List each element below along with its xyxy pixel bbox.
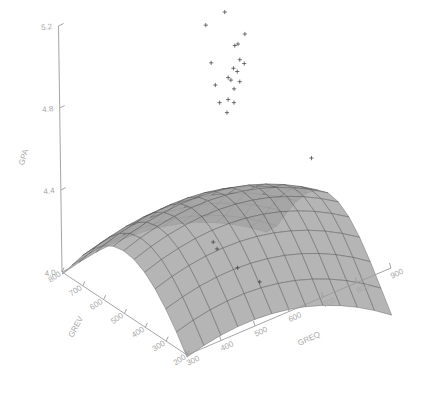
data-point	[218, 101, 222, 105]
grev-axis-title: GREV	[66, 314, 85, 339]
data-point	[243, 32, 247, 36]
greq-tick-label: 900	[389, 267, 405, 281]
gpa-tick	[60, 106, 65, 109]
grev-tick	[104, 295, 106, 300]
grev-tick	[83, 281, 85, 286]
greq-tick	[254, 321, 256, 326]
data-point	[235, 69, 239, 73]
grev-tick	[166, 337, 168, 342]
greq-tick-label: 400	[219, 339, 235, 353]
gpa-tick	[59, 24, 64, 27]
grev-tick	[125, 309, 127, 314]
surface-plot-svg: 4.04.44.85.2GPA200300400500600700800GREV…	[0, 0, 429, 394]
greq-tick	[390, 263, 392, 268]
gpa-axis-line	[59, 26, 63, 272]
data-point	[226, 97, 230, 101]
data-point	[229, 78, 233, 82]
data-point	[232, 87, 236, 91]
data-point	[213, 83, 217, 87]
greq-tick-label: 500	[253, 325, 269, 339]
data-point	[242, 61, 246, 65]
gpa-tick-label: 4.4	[43, 186, 56, 196]
data-point	[223, 10, 227, 14]
surface-face	[62, 254, 89, 275]
gpa-tick-label: 4.8	[42, 104, 55, 114]
gpa-axis-title: GPA	[17, 148, 30, 167]
data-point	[226, 75, 230, 79]
data-point	[238, 58, 242, 62]
data-point	[238, 80, 242, 84]
surface-face	[79, 244, 106, 263]
gpa-tick	[61, 188, 66, 191]
greq-axis-title: GREQ	[296, 330, 321, 348]
data-point	[232, 101, 236, 105]
surface-mesh-group	[62, 184, 392, 357]
data-point	[231, 66, 235, 70]
data-point	[225, 111, 229, 115]
data-point	[204, 23, 208, 27]
data-point	[309, 156, 313, 160]
greq-tick-label: 600	[287, 310, 303, 324]
plot-canvas: 4.04.44.85.2GPA200300400500600700800GREV…	[0, 0, 429, 394]
grev-tick	[145, 323, 147, 328]
greq-tick	[220, 336, 222, 341]
gpa-tick-label: 5.2	[41, 22, 54, 32]
data-point	[209, 61, 213, 65]
